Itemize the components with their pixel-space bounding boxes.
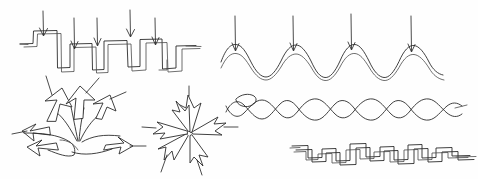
panel-arrow-fan-burst (12, 76, 146, 156)
fan-feeder-line-top-left (46, 76, 52, 95)
arrow-shaft (97, 18, 98, 45)
panel-braided-square-waves (290, 144, 476, 166)
down-arrow-5 (152, 18, 159, 45)
star-arrowhead-upper-right (192, 117, 226, 135)
panel-braided-sine-waves (226, 99, 467, 120)
fan-arrowhead-top-middle (66, 86, 95, 119)
star-detached-leaf (236, 94, 256, 106)
fan-arrowhead-top-left (45, 88, 72, 121)
down-arrow-1 (40, 11, 48, 36)
arrow-shaft (43, 11, 44, 35)
square-wave-tail-right (186, 46, 201, 47)
braid-sine-lower (226, 99, 462, 118)
sine-wave-line-b (221, 53, 444, 80)
down-arrow-2 (71, 18, 78, 49)
square-wave-tail-left (20, 44, 28, 45)
arrow-shaft (293, 16, 294, 50)
figure-canvas (0, 0, 478, 179)
panel-sine-wave-with-down-arrows (221, 14, 444, 81)
fan-base-curve-right (82, 135, 120, 142)
square-wave-line-b (24, 34, 200, 74)
panel-square-wave-with-down-arrows (20, 10, 201, 73)
sine-down-arrow-2 (290, 16, 297, 51)
arrow-shaft (411, 16, 412, 51)
sine-down-arrow-1 (232, 16, 239, 51)
arrow-shaft (351, 14, 352, 49)
fan-base-curve-inner (60, 140, 78, 150)
down-arrow-4 (127, 10, 135, 37)
sine-down-arrow-4 (408, 16, 415, 52)
fan-arrowhead-left (22, 124, 50, 141)
sketch-figure-svg (0, 0, 478, 179)
bottom-square-wave-b (296, 148, 474, 166)
fan-feeder-line-upper-right (110, 92, 126, 99)
down-arrow-3 (94, 18, 101, 46)
arrow-shaft (74, 18, 75, 48)
star-arrowhead-lower-right (190, 135, 208, 166)
star-feeder-left (142, 127, 156, 128)
fan-feeder-line-top-middle (86, 78, 99, 93)
panel-arrow-star-burst (142, 86, 256, 175)
fan-arrowhead-lower-left (27, 140, 58, 156)
braid-sine-upper (226, 101, 462, 121)
fan-arrowhead-right (104, 137, 133, 154)
bottom-square-wave-tail-right (456, 157, 476, 158)
fan-arrowhead-upper-right (93, 95, 116, 119)
bottom-square-wave-tail-left (290, 148, 300, 149)
arrow-shaft (155, 18, 156, 44)
sine-down-arrow-3 (348, 14, 355, 50)
arrow-shaft (235, 16, 236, 50)
arrow-shaft (130, 10, 131, 36)
